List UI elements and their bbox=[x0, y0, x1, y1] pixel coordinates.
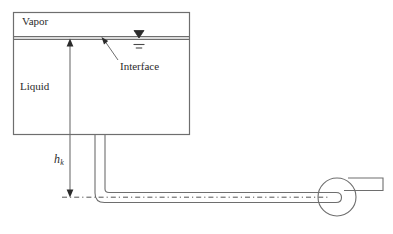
tank-outline bbox=[14, 13, 190, 135]
interface-leader-line bbox=[105, 41, 119, 61]
liquid-label: Liquid bbox=[20, 80, 49, 92]
pump-casing-circle bbox=[318, 178, 356, 216]
interface-leader-arrowhead bbox=[102, 37, 109, 45]
interface-leader bbox=[102, 37, 119, 60]
head-dimension-label: hk bbox=[54, 152, 64, 167]
dimension-arrowhead-bottom bbox=[67, 190, 74, 198]
suction-pipe bbox=[95, 135, 328, 203]
head-dimension-arrow bbox=[67, 39, 74, 198]
tank-vessel bbox=[14, 13, 190, 135]
vapor-label: Vapor bbox=[22, 15, 48, 27]
schematic-drawing bbox=[0, 0, 393, 234]
pipe-wall-inner bbox=[105, 135, 328, 193]
figure-canvas: Vapor Liquid Interface hk bbox=[0, 0, 393, 234]
pump-assembly bbox=[318, 178, 383, 216]
head-subscript: k bbox=[60, 158, 64, 167]
interface-label: Interface bbox=[120, 60, 159, 72]
